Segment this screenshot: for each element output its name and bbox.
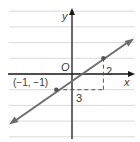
x-axis-label: x (123, 76, 130, 88)
origin-label: O (61, 61, 70, 73)
point-2-1 (101, 56, 105, 60)
y-axis-label: y (61, 10, 69, 22)
point-neg1-neg1 (54, 88, 58, 92)
run-label: 3 (76, 92, 82, 104)
point-label: (−1, −1) (13, 77, 48, 88)
graph-svg: y x O (−1, −1) 3 2 (0, 0, 140, 142)
line-arrow-down-icon (9, 117, 19, 125)
coordinate-plane-figure: y x O (−1, −1) 3 2 (0, 0, 140, 142)
rise-label: 2 (106, 65, 112, 77)
